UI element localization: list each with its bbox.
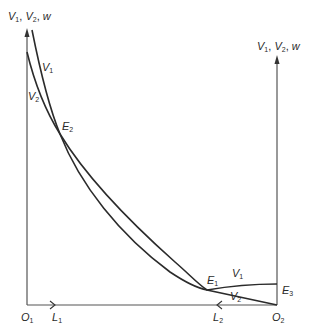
v1-upper-label: V1	[42, 62, 53, 74]
o2-label: O2	[272, 312, 284, 324]
o1-label: O1	[21, 312, 33, 324]
v2-upper-label: V2	[28, 91, 39, 103]
e2-label: E2	[62, 121, 73, 133]
left-axis-label: V1, V2, w	[8, 11, 51, 23]
v1-curve	[32, 30, 277, 290]
l1-label: L1	[52, 312, 62, 324]
e3-label: E3	[282, 285, 293, 297]
right-axis-label: V1, V2, w	[257, 41, 300, 53]
l2-label: L2	[213, 312, 223, 324]
labor-allocation-diagram: V1, V2, w V1, V2, w V1 V2 E2 E1 V1 V2 E3…	[0, 0, 309, 335]
v2-lower-label: V2	[230, 291, 241, 303]
right-axis-arrowhead-icon	[275, 55, 280, 64]
e1-label: E1	[207, 275, 218, 287]
left-axis-arrowhead-icon	[25, 28, 30, 37]
v1-lower-label: V1	[232, 268, 243, 280]
